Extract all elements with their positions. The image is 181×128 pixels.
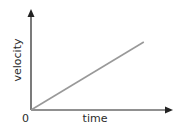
y-axis xyxy=(28,9,35,110)
origin-label: 0 xyxy=(22,112,29,125)
series-layer xyxy=(31,42,144,110)
velocity-time-chart: 0 time velocity xyxy=(0,0,181,128)
x-axis-label: time xyxy=(83,112,108,125)
y-axis-label: velocity xyxy=(11,38,24,81)
x-axis-arrow-icon xyxy=(165,107,173,114)
series-line-0 xyxy=(31,42,144,110)
y-axis-arrow-icon xyxy=(28,9,35,17)
